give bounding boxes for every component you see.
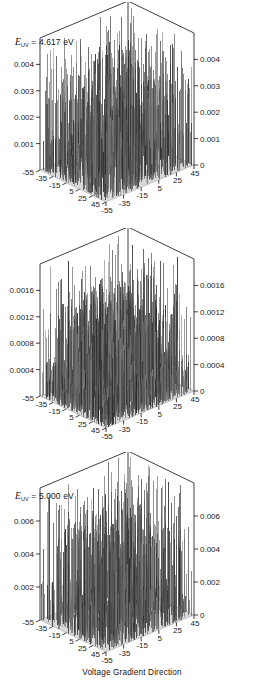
svg-text:25: 25 [78,194,87,203]
energy-label-0: EUV = 4.617 eV [15,37,74,48]
svg-text:-55: -55 [22,168,34,177]
svg-text:0: 0 [200,387,205,396]
svg-text:0.002: 0.002 [14,583,35,592]
panel-1-plot: 0.00160.00120.00080.00040.00160.00120.00… [0,228,264,453]
svg-text:0.0016: 0.0016 [10,286,35,295]
svg-text:0.006: 0.006 [14,517,35,526]
svg-text:5: 5 [69,413,74,422]
svg-text:0.003: 0.003 [200,82,221,91]
svg-text:0: 0 [200,161,205,170]
svg-text:25: 25 [173,626,182,635]
panel-0-plot: 0.0040.0030.0020.0010.0040.0030.0020.001… [0,2,264,227]
chart-panel-0: 0.0040.0030.0020.0010.0040.0030.0020.001… [0,2,264,227]
svg-text:45: 45 [191,395,200,404]
energy-value: 4.617 [39,37,61,47]
svg-text:45: 45 [191,169,200,178]
svg-text:-15: -15 [136,641,148,650]
svg-text:-55: -55 [22,618,34,627]
svg-text:45: 45 [91,426,100,435]
svg-text:0.004: 0.004 [14,550,35,559]
svg-text:0.003: 0.003 [14,87,35,96]
svg-text:0.002: 0.002 [14,113,35,122]
panel-2-plot: 0.0060.0040.0020.0060.0040.0020-55-35-15… [0,452,264,677]
svg-text:0.0008: 0.0008 [10,339,35,348]
svg-text:-35: -35 [119,649,131,658]
chart-panel-1: 0.00160.00120.00080.00040.00160.00120.00… [0,228,264,453]
svg-text:-55: -55 [22,394,34,403]
svg-text:0.0008: 0.0008 [200,334,225,343]
figure-3d-surface-series: 0.0040.0030.0020.0010.0040.0030.0020.001… [0,0,264,690]
svg-text:0.004: 0.004 [200,545,221,554]
svg-text:-15: -15 [136,191,148,200]
svg-text:0.002: 0.002 [200,108,221,117]
svg-text:-55: -55 [101,656,113,665]
svg-text:45: 45 [91,650,100,659]
svg-text:0.001: 0.001 [14,140,35,149]
svg-text:5: 5 [158,184,163,193]
svg-text:-55: -55 [101,432,113,441]
svg-text:-35: -35 [36,624,48,633]
svg-text:-35: -35 [36,174,48,183]
svg-text:25: 25 [78,644,87,653]
svg-text:-35: -35 [119,425,131,434]
svg-text:0.002: 0.002 [200,578,221,587]
svg-text:5: 5 [158,410,163,419]
chart-panel-2: 0.0060.0040.0020.0060.0040.0020-55-35-15… [0,452,264,677]
svg-text:-55: -55 [101,206,113,215]
svg-text:0.004: 0.004 [200,55,221,64]
svg-text:-15: -15 [49,631,61,640]
svg-text:0.0004: 0.0004 [200,361,225,370]
svg-text:-35: -35 [36,400,48,409]
svg-text:0.0012: 0.0012 [200,308,225,317]
svg-text:-15: -15 [136,417,148,426]
energy-subscript: UV [21,42,29,48]
svg-text:5: 5 [69,187,74,196]
svg-text:0.0004: 0.0004 [10,366,35,375]
svg-text:0.006: 0.006 [200,512,221,521]
svg-text:0.001: 0.001 [200,135,221,144]
svg-text:0.004: 0.004 [14,60,35,69]
svg-text:45: 45 [191,619,200,628]
svg-text:-15: -15 [49,407,61,416]
svg-text:25: 25 [173,176,182,185]
svg-text:5: 5 [69,637,74,646]
svg-text:5: 5 [158,634,163,643]
energy-unit: eV [63,37,74,47]
svg-text:45: 45 [91,200,100,209]
svg-text:25: 25 [173,402,182,411]
svg-text:0.0016: 0.0016 [200,281,225,290]
figure-caption: Voltage Gradient Direction [0,668,264,677]
svg-text:-15: -15 [49,181,61,190]
svg-text:25: 25 [78,420,87,429]
svg-text:0.0012: 0.0012 [10,313,35,322]
svg-text:-35: -35 [119,199,131,208]
svg-text:0: 0 [200,611,205,620]
